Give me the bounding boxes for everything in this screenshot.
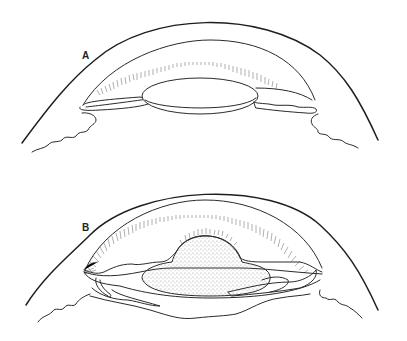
panel-b (26, 194, 378, 322)
panel-b-left-flap (96, 278, 111, 297)
panel-b-left-flap-lower (92, 288, 160, 306)
panel-a-left-ciliary (32, 113, 96, 152)
panel-a-right-iris-wavy (254, 102, 317, 113)
panel-b-left-ciliary (38, 294, 90, 322)
panel-a-right-iris (256, 88, 312, 100)
panel-b-right-ciliary (319, 290, 362, 318)
panel-a-lens (142, 78, 258, 114)
panel-a (22, 23, 378, 152)
panel-a-left-iris (83, 97, 148, 107)
diagram-svg (0, 0, 407, 341)
eye-diagram-figure: A B (0, 0, 407, 341)
panel-a-left-iris-lower (80, 104, 148, 110)
panel-a-right-ciliary (311, 114, 358, 148)
